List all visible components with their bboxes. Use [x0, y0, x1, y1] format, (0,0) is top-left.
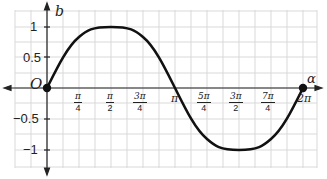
x-tick-3pi-over-2: 3π2: [229, 92, 243, 113]
y-tick-1: 1: [30, 20, 37, 33]
y-tick-neg-1: −1: [23, 143, 38, 156]
x-tick-2pi: 2π: [297, 93, 311, 104]
origin-label: O: [30, 77, 42, 92]
y-axis-down-arrow-icon: [45, 168, 50, 175]
x-axis-label: α: [307, 72, 316, 85]
grid: [15, 10, 317, 168]
x-tick-pi-over-4: π4: [74, 92, 82, 113]
x-tick-pi: π: [171, 93, 178, 104]
x-tick-7pi-over-4: 7π4: [261, 92, 275, 113]
x-tick-5pi-over-4: 5π4: [197, 92, 211, 113]
y-axis-up-arrow-icon: [45, 3, 50, 10]
end-point-icon: [299, 84, 307, 92]
x-axis-right-arrow-icon: [315, 86, 322, 91]
sine-graph: b α O 1 0.5 −0.5 −1 π4 π2 3π4 π 5π4 3π2 …: [0, 0, 327, 179]
y-tick-neg-0.5: −0.5: [13, 112, 39, 125]
start-point-icon: [43, 84, 51, 92]
x-tick-pi-over-2: π2: [106, 92, 114, 113]
plot-area: [0, 0, 327, 179]
axes: [4, 3, 322, 175]
x-tick-3pi-over-4: 3π4: [133, 92, 147, 113]
y-axis-label: b: [55, 4, 64, 18]
x-axis-left-arrow-icon: [4, 86, 11, 91]
y-tick-0.5: 0.5: [23, 51, 41, 64]
